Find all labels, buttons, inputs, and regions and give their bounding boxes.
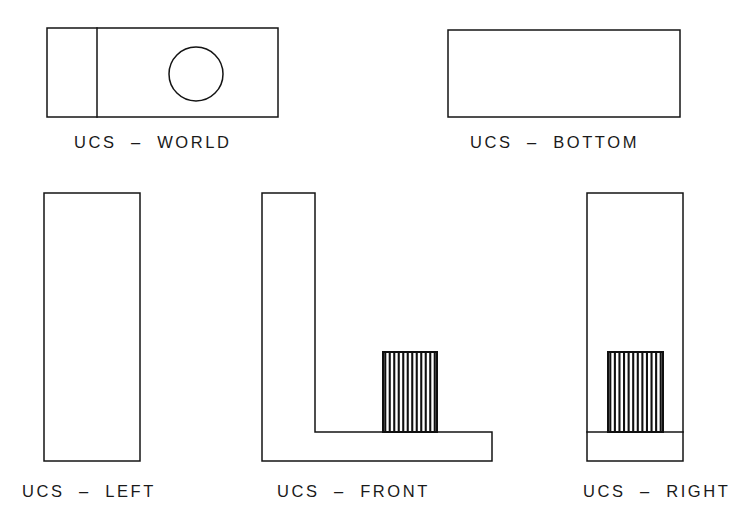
front-l-bracket-profile [262, 193, 492, 461]
view-ucs-bottom: UCS – BOTTOM [448, 30, 680, 151]
front-boss-section [383, 352, 437, 432]
front-boss-fill [383, 352, 437, 432]
world-hole-circle [169, 47, 223, 101]
left-outline [44, 193, 140, 461]
bottom-outline [448, 30, 680, 117]
right-boss-fill [608, 352, 663, 432]
right-boss-section [608, 352, 663, 432]
view-ucs-front: UCS – FRONT [262, 193, 492, 500]
world-outline [47, 28, 278, 117]
view-label-left: UCS – LEFT [22, 482, 156, 500]
view-label-world: UCS – WORLD [74, 133, 232, 151]
view-label-front: UCS – FRONT [277, 482, 430, 500]
view-label-bottom: UCS – BOTTOM [470, 133, 639, 151]
view-ucs-left: UCS – LEFT [22, 193, 156, 500]
view-ucs-world: UCS – WORLD [47, 28, 278, 151]
drawing-canvas: UCS – WORLD UCS – BOTTOM UCS – LEFT UCS … [0, 0, 730, 525]
view-label-right: UCS – RIGHT [583, 482, 730, 500]
view-ucs-right: UCS – RIGHT [583, 193, 730, 500]
drawing-sheet: UCS – WORLD UCS – BOTTOM UCS – LEFT UCS … [0, 0, 730, 525]
